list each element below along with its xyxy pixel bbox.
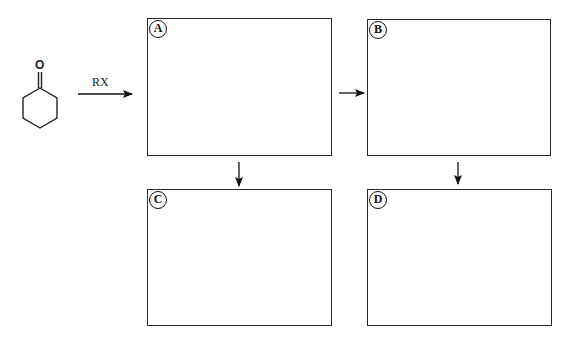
reagent-label: RX <box>92 75 109 90</box>
label-b: B <box>369 21 387 39</box>
label-a: A <box>149 20 167 38</box>
cyclohexanone-structure <box>23 72 57 128</box>
box-d: D <box>367 189 552 326</box>
oxygen-atom-label: O <box>35 58 44 72</box>
label-c: C <box>149 191 167 209</box>
box-a: A <box>147 18 332 156</box>
box-b: B <box>367 19 551 156</box>
box-c: C <box>147 189 332 326</box>
label-d: D <box>369 191 387 209</box>
